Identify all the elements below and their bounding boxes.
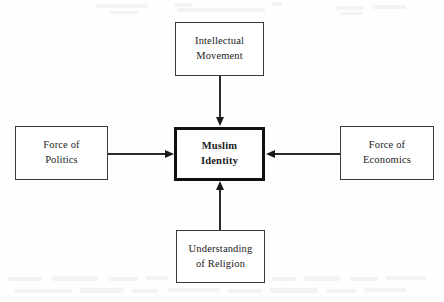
node-muslim-identity[interactable]: Muslim Identity bbox=[174, 127, 265, 181]
arrow-shaft bbox=[108, 153, 166, 154]
page-bleed-artifact bbox=[96, 4, 148, 8]
page-bleed-artifact bbox=[108, 277, 138, 281]
node-intellectual-movement[interactable]: Intellectual Movement bbox=[175, 22, 264, 76]
page-bleed-artifact bbox=[52, 276, 98, 281]
node-label: Intellectual Movement bbox=[195, 34, 244, 64]
page-bleed-artifact bbox=[168, 288, 220, 292]
arrow-bottom-to-center bbox=[215, 181, 225, 230]
node-label: Understanding of Religion bbox=[189, 242, 253, 272]
page-bleed-artifact bbox=[304, 276, 340, 281]
arrowhead-down-icon bbox=[216, 117, 224, 126]
node-force-of-politics[interactable]: Force of Politics bbox=[15, 126, 108, 180]
page-bleed-artifact bbox=[228, 289, 262, 293]
arrow-top-to-center bbox=[215, 76, 225, 126]
arrowhead-up-icon bbox=[216, 181, 224, 190]
arrow-shaft bbox=[219, 189, 220, 230]
arrow-shaft bbox=[219, 76, 220, 118]
node-force-of-economics[interactable]: Force of Economics bbox=[340, 126, 434, 180]
page-bleed-artifact bbox=[340, 12, 362, 15]
page-bleed-artifact bbox=[272, 2, 282, 6]
page-bleed-artifact bbox=[386, 276, 426, 280]
node-label: Force of Economics bbox=[363, 138, 411, 168]
page-bleed-artifact bbox=[132, 289, 158, 293]
page-bleed-artifact bbox=[14, 289, 72, 293]
node-label: Force of Politics bbox=[43, 138, 79, 168]
node-understanding-of-religion[interactable]: Understanding of Religion bbox=[176, 230, 265, 283]
page-bleed-artifact bbox=[364, 288, 406, 292]
page-bleed-artifact bbox=[272, 277, 296, 281]
arrowhead-left-icon bbox=[266, 150, 275, 158]
page-bleed-artifact bbox=[350, 277, 378, 281]
arrow-shaft bbox=[274, 153, 340, 154]
arrowhead-right-icon bbox=[165, 150, 174, 158]
page-bleed-artifact bbox=[80, 288, 124, 293]
page-bleed-artifact bbox=[372, 5, 406, 9]
arrow-right-to-center bbox=[266, 149, 340, 159]
page-bleed-artifact bbox=[326, 289, 356, 293]
page-bleed-artifact bbox=[270, 288, 318, 293]
page-bleed-artifact bbox=[146, 276, 168, 280]
page-bleed-artifact bbox=[174, 3, 192, 7]
node-label: Muslim Identity bbox=[201, 139, 238, 169]
arrow-left-to-center bbox=[108, 149, 174, 159]
page-bleed-artifact bbox=[177, 8, 265, 12]
diagram-canvas: Intellectual Movement Force of Politics … bbox=[0, 0, 444, 302]
page-bleed-artifact bbox=[8, 277, 42, 281]
page-bleed-artifact bbox=[336, 6, 364, 10]
page-bleed-artifact bbox=[110, 11, 138, 14]
